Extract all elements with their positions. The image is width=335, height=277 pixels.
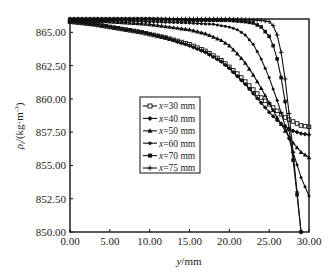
circle-marker-icon	[236, 28, 239, 31]
circle-marker-icon	[260, 57, 263, 60]
y-axis-label: ρl/(kg·m-3)	[13, 102, 27, 150]
diamond-marker-icon	[303, 132, 308, 137]
square-marker-icon	[291, 120, 295, 124]
triangle-marker-icon	[275, 115, 280, 119]
square-marker-icon	[303, 124, 307, 128]
square-marker-icon	[263, 99, 267, 103]
x-tick-label: 30.00	[297, 235, 322, 247]
legend-label: x=40 mm	[158, 114, 196, 124]
circle-marker-icon	[196, 22, 199, 25]
legend-label: x=75 mm	[158, 163, 196, 173]
filled-square-marker-icon	[259, 25, 263, 29]
plus-marker-icon	[283, 77, 288, 82]
circle-marker-icon	[268, 76, 271, 79]
circle-marker-icon	[256, 50, 259, 53]
circle-marker-icon	[208, 23, 211, 26]
x-axis-label-unit: /mm	[181, 255, 202, 267]
circle-marker-icon	[244, 33, 247, 36]
square-marker-icon	[299, 124, 303, 128]
y-tick-label: 860.00	[36, 93, 67, 105]
circle-marker-icon	[220, 24, 223, 27]
legend-label: x=70 mm	[158, 151, 196, 161]
y-tick-label: 857.50	[36, 126, 67, 138]
plus-marker-icon	[275, 33, 280, 38]
diamond-marker-icon	[299, 131, 304, 136]
circle-marker-icon	[304, 185, 307, 188]
square-marker-icon	[275, 109, 279, 113]
square-marker-icon	[259, 96, 263, 100]
circle-marker-icon	[264, 67, 267, 70]
x-tick-label: 20.00	[217, 235, 242, 247]
circle-marker-icon	[284, 124, 287, 127]
y-tick-label: 850.00	[36, 226, 67, 238]
x-tick-label: 5.00	[100, 235, 120, 247]
legend: x=30 mmx=40 mmx=50 mmx=60 mmx=70 mmx=75 …	[140, 97, 200, 173]
square-marker-icon	[148, 104, 152, 108]
filled-square-marker-icon	[263, 30, 267, 34]
circle-marker-icon	[232, 27, 235, 30]
y-tick-label: 852.50	[36, 193, 67, 205]
triangle-marker-icon	[263, 93, 268, 97]
filled-square-marker-icon	[275, 57, 279, 61]
square-marker-icon	[255, 92, 259, 96]
filled-square-marker-icon	[283, 100, 287, 104]
square-marker-icon	[283, 116, 287, 120]
filled-square-marker-icon	[279, 76, 283, 80]
x-tick-label: 15.00	[177, 235, 202, 247]
circle-marker-icon	[252, 43, 255, 46]
y-tick-label: 862.50	[36, 60, 67, 72]
circle-marker-icon	[212, 23, 215, 26]
circle-marker-icon	[228, 25, 231, 28]
square-marker-icon	[295, 122, 299, 126]
legend-label: x=60 mm	[158, 139, 196, 149]
circle-marker-icon	[296, 163, 299, 166]
x-tick-label: 10.00	[137, 235, 162, 247]
x-tick-label: 25.00	[257, 235, 282, 247]
plus-marker-icon	[279, 50, 284, 55]
x-axis-label: y/mm	[175, 255, 202, 267]
y-tick-label: 855.00	[36, 159, 67, 171]
circle-marker-icon	[272, 87, 275, 90]
circle-marker-icon	[204, 22, 207, 25]
circle-marker-icon	[148, 142, 151, 145]
circle-marker-icon	[280, 111, 283, 114]
square-marker-icon	[251, 88, 255, 92]
circle-marker-icon	[300, 176, 303, 179]
circle-marker-icon	[248, 38, 251, 41]
circle-marker-icon	[216, 23, 219, 26]
filled-square-marker-icon	[271, 44, 275, 48]
y-tick-label: 865.00	[36, 26, 67, 38]
line-chart: 0.005.0010.0015.0020.0025.0030.00 850.00…	[0, 0, 335, 277]
circle-marker-icon	[224, 25, 227, 28]
y-axis-ticks: 850.00852.50855.00857.50860.00862.50865.…	[36, 26, 73, 238]
legend-label: x=50 mm	[158, 126, 196, 136]
filled-square-marker-icon	[255, 23, 259, 27]
diamond-marker-icon	[295, 130, 300, 135]
circle-marker-icon	[240, 31, 243, 34]
filled-square-marker-icon	[267, 35, 271, 39]
legend-label: x=30 mm	[158, 101, 196, 111]
circle-marker-icon	[276, 99, 279, 102]
circle-marker-icon	[192, 22, 195, 25]
circle-marker-icon	[200, 22, 203, 25]
filled-square-marker-icon	[148, 154, 152, 158]
